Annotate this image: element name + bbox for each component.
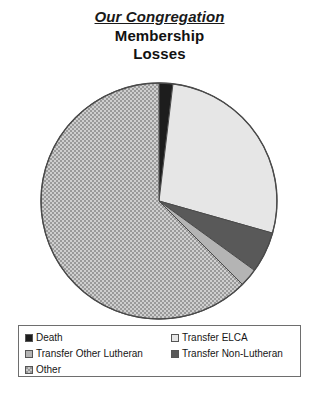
legend-swatch-icon-other (25, 366, 33, 374)
legend-column-left: Death Transfer Other Lutheran Other (25, 330, 175, 378)
legend-label-other: Other (36, 364, 61, 375)
legend-column-right: Transfer ELCA Transfer Non-Lutheran (171, 330, 299, 362)
legend-item-other[interactable]: Other (25, 362, 175, 377)
legend-label-transfer-non-lutheran: Transfer Non-Lutheran (182, 348, 283, 359)
legend-item-death[interactable]: Death (25, 330, 175, 345)
legend-label-transfer-elca: Transfer ELCA (182, 332, 248, 343)
chart-legend: Death Transfer Other Lutheran Other Tran… (18, 325, 301, 377)
legend-swatch-icon-transfer-other-lutheran (25, 350, 33, 358)
legend-item-transfer-other-lutheran[interactable]: Transfer Other Lutheran (25, 346, 175, 361)
legend-swatch-icon-transfer-non-lutheran (171, 350, 179, 358)
pie-chart-svg (36, 78, 282, 324)
legend-label-death: Death (36, 332, 63, 343)
page-title-emphasis: Our Congregation (95, 9, 225, 26)
legend-item-transfer-elca[interactable]: Transfer ELCA (171, 330, 299, 345)
page-title-line-2: Membership (0, 28, 319, 45)
pie-chart (36, 78, 282, 324)
legend-swatch-icon-death (25, 334, 33, 342)
membership-losses-chart-card: Our Congregation Membership Losses Death (0, 0, 319, 402)
pie-slice-group (41, 83, 277, 319)
legend-swatch-icon-transfer-elca (171, 334, 179, 342)
legend-item-transfer-non-lutheran[interactable]: Transfer Non-Lutheran (171, 346, 299, 361)
page-title-line-3: Losses (0, 46, 319, 63)
legend-label-transfer-other-lutheran: Transfer Other Lutheran (36, 348, 143, 359)
chart-title-block: Our Congregation Membership Losses (0, 8, 319, 63)
